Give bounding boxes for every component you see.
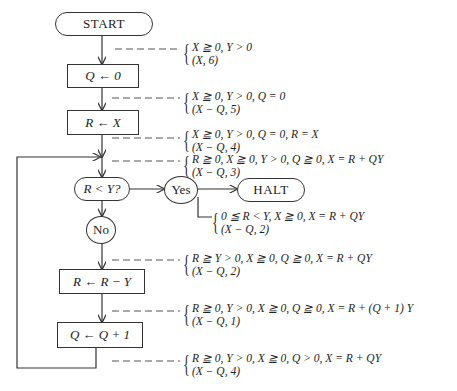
annotation-condition: R ≧ Y > 0, X ≧ 0, Q ≧ 0, X = R + QY — [192, 252, 372, 265]
annotation-condition: R ≧ 0, Y > 0, X ≧ 0, Q > 0, X = R + QY — [192, 352, 381, 365]
init-q-box: Q ← 0 — [67, 64, 139, 88]
no-connector: No — [86, 216, 116, 244]
halt-terminal: HALT — [237, 178, 305, 202]
brace-icon: { — [183, 39, 190, 67]
no-label: No — [93, 222, 109, 238]
increment-label: Q ← Q + 1 — [70, 327, 130, 343]
annotation-label: (X − Q, 3) — [192, 166, 240, 179]
annotation-condition: R ≧ 0, Y > 0, X ≧ 0, Q ≧ 0, X = R + (Q +… — [192, 302, 413, 315]
annotation-leaders — [112, 49, 180, 361]
init-q-label: Q ← 0 — [85, 68, 120, 84]
brace-icon: { — [183, 350, 190, 378]
annotation-label: (X − Q, 2) — [221, 223, 269, 236]
annotation-condition: 0 ≦ R < Y, X ≧ 0, X = R + QY — [221, 210, 364, 223]
annotation-label: (X − Q, 1) — [192, 315, 240, 328]
test-label: R < Y? — [84, 181, 121, 197]
annotation-label: (X − Q, 2) — [192, 265, 240, 278]
increment-box: Q ← Q + 1 — [57, 322, 143, 348]
subtract-box: R ← R − Y — [59, 269, 145, 294]
subtract-label: R ← R − Y — [73, 274, 131, 290]
init-r-box: R ← X — [67, 110, 139, 135]
brace-icon: { — [212, 208, 219, 236]
yes-annotation-leader — [198, 197, 212, 217]
brace-icon: { — [183, 300, 190, 328]
annotation-condition: X ≧ 0, Y > 0 — [192, 41, 252, 54]
annotation-condition: R ≧ 0, X ≧ 0, Y > 0, Q ≧ 0, X = R + QY — [192, 153, 383, 166]
brace-icon: { — [183, 88, 190, 116]
annotation-label: (X − Q, 4) — [192, 365, 240, 378]
brace-icon: { — [183, 151, 190, 179]
yes-connector: Yes — [164, 176, 198, 204]
annotation-condition: X ≧ 0, Y > 0, Q = 0, R = X — [192, 128, 319, 141]
test-decision: R < Y? — [74, 177, 130, 201]
annotation-condition: X ≧ 0, Y > 0, Q = 0 — [192, 90, 285, 103]
brace-icon: { — [183, 250, 190, 278]
halt-label: HALT — [253, 182, 288, 198]
start-label: START — [83, 16, 125, 32]
yes-label: Yes — [172, 182, 191, 198]
init-r-label: R ← X — [85, 115, 120, 131]
annotation-label: (X, 6) — [192, 54, 218, 67]
start-terminal: START — [55, 12, 153, 36]
annotation-label: (X − Q, 5) — [192, 103, 240, 116]
